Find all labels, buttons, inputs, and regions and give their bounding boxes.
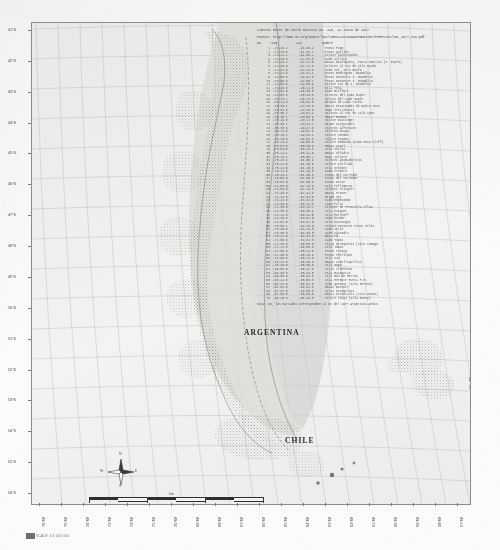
latitude-tick-mark [28,153,31,154]
latitude-tick-mark [28,493,31,494]
latitude-tick-label: 41°S [8,28,16,32]
longitude-tick-label: 74°W [85,517,90,527]
latitude-tick-label: 45°S [8,151,16,155]
scale-seg-3 [147,497,176,500]
scale-seg-2 [118,497,147,502]
latitude-tick-label: 56°S [8,491,16,495]
longitude-tick-label: 59°W [415,517,420,527]
longitude-tick-label: 61°W [371,517,376,527]
table-header-decree: Limites Exter de Chile Decreto No. 416, … [257,28,469,33]
longitude-tick-label: 62°W [349,517,354,527]
scale-seg-4 [176,497,205,502]
longitude-tick-label: 70°W [173,517,178,527]
scale-label-3: 300 [260,504,266,506]
longitude-tick-mark [171,503,172,506]
longitude-tick-mark [347,503,348,506]
longitude-tick-mark [325,503,326,506]
latitude-tick-mark [28,184,31,185]
longitude-tick-label: 75°W [63,517,68,527]
longitude-tick-mark [369,503,370,506]
longitude-tick-label: 69°W [195,517,200,527]
longitude-tick-mark [39,503,40,506]
longitude-tick-label: 60°W [393,517,398,527]
longitude-tick-mark [413,503,414,506]
latitude-tick-label: 49°S [8,275,16,279]
longitude-tick-mark [193,503,194,506]
table-column-headers: No. Long. Lat. Nombre [257,42,469,46]
table-cell-lat: -55.48.0 [299,297,325,301]
scale-label-0: 0 [88,504,90,506]
table-header-source: Fuente: http://www.un.org/Depts/los/LEGI… [257,35,469,40]
longitude-tick-mark [61,503,62,506]
compass-north-label: N [119,452,122,456]
longitude-tick-mark [149,503,150,506]
latitude-tick-mark [28,92,31,93]
scale-seg-5 [205,497,234,500]
scale-tick-2 [205,497,206,503]
latitude-tick-label: 47°S [8,213,16,217]
longitude-tick-mark [303,503,304,506]
longitude-tick-mark [457,503,458,506]
scale-tick-0 [89,497,90,503]
stamp-icon [26,533,35,539]
table-footnote: Nota: 66, los marcados corresponden al D… [257,303,469,307]
longitude-tick-mark [435,503,436,506]
latitude-tick-mark [28,400,31,401]
falkland-line-1: Falkland [469,375,471,383]
longitude-tick-mark [259,503,260,506]
compass-rose: N S W E [104,455,138,489]
table-cell-long: -66.45.0 [273,297,299,301]
compass-west-label: W [100,469,103,473]
coordinate-table: Limites Exter de Chile Decreto No. 416, … [257,28,469,307]
latitude-tick-label: 52°S [8,368,16,372]
latitude-tick-label: 44°S [8,121,16,125]
longitude-tick-label: 76°W [41,517,46,527]
longitude-tick-mark [281,503,282,506]
latitude-tick-mark [28,308,31,309]
latitude-tick-mark [28,370,31,371]
latitude-tick-mark [28,215,31,216]
latitude-tick-label: 54°S [8,429,16,433]
map-frame: ARGENTINA CHILE Falkland Islands Limites… [31,22,471,505]
scale-stamp: SCALE 1:4 000 000 [26,533,69,539]
scale-tick-1 [147,497,148,503]
scale-unit-label: km [169,492,174,496]
latitude-tick-label: 51°S [8,337,16,341]
longitude-tick-label: 67°W [239,517,244,527]
longitude-tick-mark [105,503,106,506]
longitude-tick-label: 71°W [151,517,156,527]
scale-seg-1 [89,497,118,500]
latitude-tick-label: 50°S [8,306,16,310]
scale-seg-6 [234,497,263,502]
table-cell-no: 70 [257,297,273,301]
latitude-tick-mark [28,30,31,31]
latitude-tick-label: 55°S [8,460,16,464]
latitude-tick-label: 43°S [8,90,16,94]
compass-south-label: S [119,484,121,488]
longitude-tick-mark [127,503,128,506]
map-label-argentina: ARGENTINA [244,328,300,337]
compass-east-label: E [135,469,137,473]
latitude-tick-label: 42°S [8,59,16,63]
falkland-line-2: Islands [469,383,471,391]
table-cell-nombre: Islote Chico (Isla Nueva) [325,297,469,301]
scale-label-2: 200 [202,504,208,506]
map-page: ARGENTINA CHILE Falkland Islands Limites… [0,0,500,550]
longitude-tick-label: 73°W [107,517,112,527]
scale-bar: 0 100 200 300 km [89,497,264,505]
latitude-tick-mark [28,61,31,62]
falkland-islands-shape [387,338,454,399]
latitude-tick-mark [28,246,31,247]
longitude-tick-label: 58°W [437,517,442,527]
latitude-tick-mark [28,277,31,278]
table-row: 70-66.45.0-55.48.0Islote Chico (Isla Nue… [257,297,469,301]
longitude-tick-label: 66°W [261,517,266,527]
stamp-text: SCALE 1:4 000 000 [36,534,69,538]
longitude-tick-label: 68°W [217,517,222,527]
latitude-tick-mark [28,123,31,124]
longitude-tick-mark [215,503,216,506]
map-label-falkland-islands: Falkland Islands [469,375,471,390]
latitude-tick-label: 53°S [8,398,16,402]
map-label-chile: CHILE [285,436,315,445]
latitude-tick-mark [28,431,31,432]
